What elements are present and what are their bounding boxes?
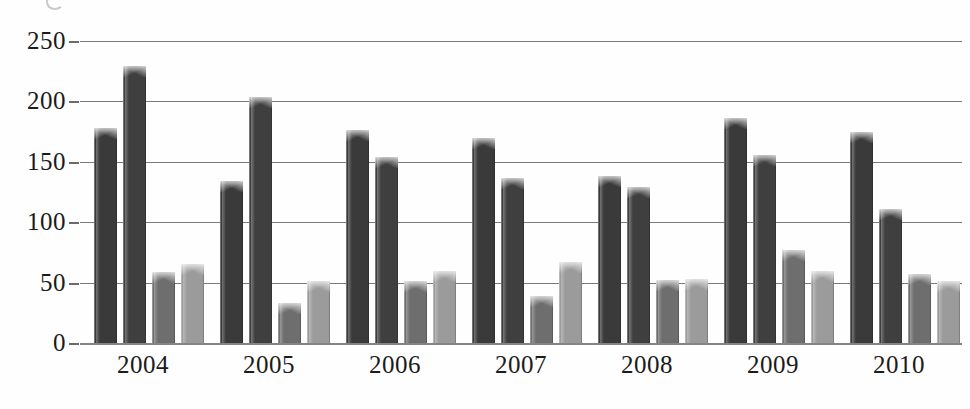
- gridline-0: [80, 343, 962, 345]
- bar-2005-series1[interactable]: [220, 181, 243, 343]
- x-axis-tick-label: 2010: [836, 352, 962, 377]
- y-tick-50: [69, 283, 79, 285]
- bar-2006-series3[interactable]: [404, 281, 427, 343]
- bar-2004-series2[interactable]: [123, 66, 146, 343]
- x-axis-labels: 2004200520062007200820092010: [80, 352, 962, 397]
- bar-2007-series3[interactable]: [530, 296, 553, 343]
- bar-2009-series1[interactable]: [724, 118, 747, 343]
- bar-2009-series4[interactable]: [811, 271, 834, 343]
- bar-body: [472, 138, 495, 343]
- bar-2005-series3[interactable]: [278, 303, 301, 343]
- bar-2004-series1[interactable]: [94, 128, 117, 343]
- bar-2007-series4[interactable]: [559, 262, 582, 343]
- bar-body: [879, 209, 902, 343]
- bar-body: [908, 274, 931, 343]
- bar-body: [346, 130, 369, 343]
- bar-2005-series4[interactable]: [307, 281, 330, 343]
- bar-2006-series4[interactable]: [433, 271, 456, 343]
- bar-body: [782, 250, 805, 343]
- bar-2010-series3[interactable]: [908, 274, 931, 343]
- bar-body: [404, 281, 427, 343]
- bar-2008-series2[interactable]: [627, 187, 650, 343]
- y-axis-tick-label: 150: [0, 149, 66, 174]
- x-axis-tick-label: 2005: [206, 352, 332, 377]
- bar-2009-series2[interactable]: [753, 155, 776, 343]
- bar-group-2005: [220, 41, 337, 343]
- y-tick-0: [69, 343, 79, 345]
- y-tick-250: [69, 41, 79, 43]
- x-axis-tick-label: 2008: [584, 352, 710, 377]
- bar-body: [530, 296, 553, 343]
- bar-2008-series3[interactable]: [656, 280, 679, 343]
- y-axis-tick-label: 200: [0, 88, 66, 113]
- bar-2007-series2[interactable]: [501, 178, 524, 343]
- y-axis-tick-label: 250: [0, 28, 66, 53]
- bar-body: [685, 279, 708, 343]
- y-tick-200: [69, 101, 79, 103]
- x-axis-tick-label: 2007: [458, 352, 584, 377]
- bar-body: [501, 178, 524, 343]
- bar-2010-series2[interactable]: [879, 209, 902, 343]
- bar-body: [123, 66, 146, 343]
- bar-body: [937, 281, 960, 343]
- bar-2008-series4[interactable]: [685, 279, 708, 343]
- bar-body: [598, 176, 621, 343]
- bar-body: [850, 132, 873, 343]
- bar-body: [278, 303, 301, 343]
- bar-group-2010: [850, 41, 967, 343]
- bar-group-2008: [598, 41, 715, 343]
- y-axis-tick-label: 100: [0, 209, 66, 234]
- bar-2004-series3[interactable]: [152, 272, 175, 343]
- bar-group-2009: [724, 41, 841, 343]
- bar-body: [220, 181, 243, 343]
- y-tick-100: [69, 222, 79, 224]
- bar-body: [627, 187, 650, 343]
- bar-groups-layer: [80, 41, 962, 343]
- bar-body: [753, 155, 776, 343]
- bar-body: [811, 271, 834, 343]
- x-axis-tick-label: 2006: [332, 352, 458, 377]
- bar-group-2004: [94, 41, 211, 343]
- bar-body: [433, 271, 456, 343]
- bar-2004-series4[interactable]: [181, 264, 204, 343]
- bar-2005-series2[interactable]: [249, 97, 272, 343]
- bar-body: [724, 118, 747, 343]
- bar-body: [375, 157, 398, 343]
- bar-2007-series1[interactable]: [472, 138, 495, 343]
- x-axis-tick-label: 2004: [80, 352, 206, 377]
- x-axis-tick-label: 2009: [710, 352, 836, 377]
- bar-body: [152, 272, 175, 343]
- bar-2010-series4[interactable]: [937, 281, 960, 343]
- scan-artifact: [46, 0, 64, 10]
- bar-2010-series1[interactable]: [850, 132, 873, 343]
- y-axis-tick-label: 0: [0, 330, 66, 355]
- bar-chart: 050100150200250 200420052006200720082009…: [0, 0, 970, 409]
- bar-body: [94, 128, 117, 343]
- bar-2006-series2[interactable]: [375, 157, 398, 343]
- y-axis-tick-label: 50: [0, 270, 66, 295]
- bar-body: [559, 262, 582, 343]
- bar-2008-series1[interactable]: [598, 176, 621, 343]
- bar-2006-series1[interactable]: [346, 130, 369, 343]
- bar-body: [307, 281, 330, 343]
- bar-group-2007: [472, 41, 589, 343]
- bar-body: [181, 264, 204, 343]
- bar-body: [249, 97, 272, 343]
- plot-area: [80, 41, 962, 343]
- bar-body: [656, 280, 679, 343]
- bar-group-2006: [346, 41, 463, 343]
- bar-2009-series3[interactable]: [782, 250, 805, 343]
- y-tick-150: [69, 162, 79, 164]
